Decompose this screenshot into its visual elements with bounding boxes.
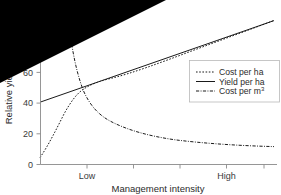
x-axis-title: Management intensity <box>112 183 205 194</box>
legend-label-cost-per-m3: Cost per m3 <box>219 86 265 96</box>
chart-legend: Cost per ha Yield per ha Cost per m3 <box>190 61 280 103</box>
x-tick-label-low: Low <box>79 171 96 181</box>
legend-label-cost-per-ha: Cost per ha <box>219 67 264 77</box>
x-tick-label-high: High <box>217 171 236 181</box>
y-tick-label-20: 20 <box>23 129 33 139</box>
legend-label-yield-per-ha: Yield per ha <box>219 77 265 87</box>
legend-label-cost-per-m3-base: Cost per m <box>219 86 261 96</box>
y-tick-label-40: 40 <box>23 98 33 108</box>
line-chart: 0 20 40 60 Relative yield Low High Manag… <box>0 0 281 195</box>
chart-figure: 0 20 40 60 Relative yield Low High Manag… <box>0 0 281 195</box>
y-tick-label-0: 0 <box>28 160 33 170</box>
